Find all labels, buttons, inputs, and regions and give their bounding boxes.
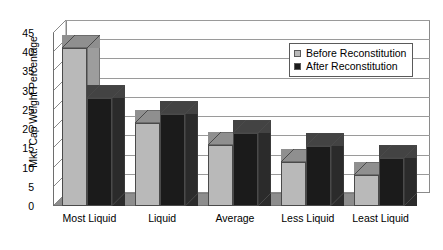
legend-swatch-icon — [294, 63, 301, 70]
legend-item-label: Before Reconstitution — [306, 48, 406, 59]
bar-front-face — [306, 146, 331, 206]
y-tick-label: 35 — [14, 66, 34, 76]
legend-item: After Reconstitution — [294, 60, 406, 73]
bar-front-face — [208, 145, 233, 207]
bar — [160, 101, 198, 206]
bar-top-face — [306, 133, 344, 146]
axis-tick-mark — [53, 20, 67, 34]
y-tick-label: 10 — [14, 163, 34, 173]
y-tick-label: 45 — [14, 28, 34, 38]
legend-item: Before Reconstitution — [294, 47, 406, 60]
bar — [306, 133, 344, 206]
x-tick-label: Least Liquid — [334, 212, 427, 224]
y-tick-label: 5 — [14, 182, 34, 192]
y-tick-label: 0 — [14, 201, 34, 211]
bar-side-face — [185, 101, 198, 206]
bar-side-face — [112, 85, 125, 206]
bar-top-face — [233, 120, 271, 133]
y-tick-label: 20 — [14, 124, 34, 134]
y-axis-line — [53, 33, 54, 206]
x-axis-tick-labels: Most LiquidLiquidAverageLess LiquidLeast… — [53, 212, 443, 232]
legend-swatch-icon — [294, 50, 301, 57]
y-tick-label: 30 — [14, 86, 34, 96]
y-axis-tick-labels: 051015202530354045 — [12, 0, 34, 250]
bar-top-face — [87, 85, 125, 98]
bar-front-face — [281, 162, 306, 206]
gridline — [66, 20, 430, 21]
legend-item-label: After Reconstitution — [306, 61, 398, 72]
gridline — [66, 39, 430, 40]
bar — [233, 120, 271, 206]
gridline — [66, 78, 430, 79]
chart-legend: Before ReconstitutionAfter Reconstitutio… — [289, 43, 413, 77]
bar-front-face — [379, 158, 404, 206]
bar-front-face — [354, 175, 379, 206]
bar-front-face — [62, 48, 87, 206]
y-tick-label: 40 — [14, 47, 34, 57]
bar-front-face — [160, 114, 185, 206]
bar-top-face — [379, 145, 417, 158]
bar-top-face — [160, 101, 198, 114]
bar-front-face — [87, 98, 112, 206]
y-tick-label: 15 — [14, 143, 34, 153]
bar-top-face — [62, 35, 100, 48]
bar — [379, 145, 417, 206]
bar-front-face — [233, 133, 258, 206]
bar-chart: Mkt. Cap Weight Percentage 0510152025303… — [0, 0, 443, 250]
bar — [87, 85, 125, 206]
y-tick-label: 25 — [14, 105, 34, 115]
bar-front-face — [135, 123, 160, 206]
